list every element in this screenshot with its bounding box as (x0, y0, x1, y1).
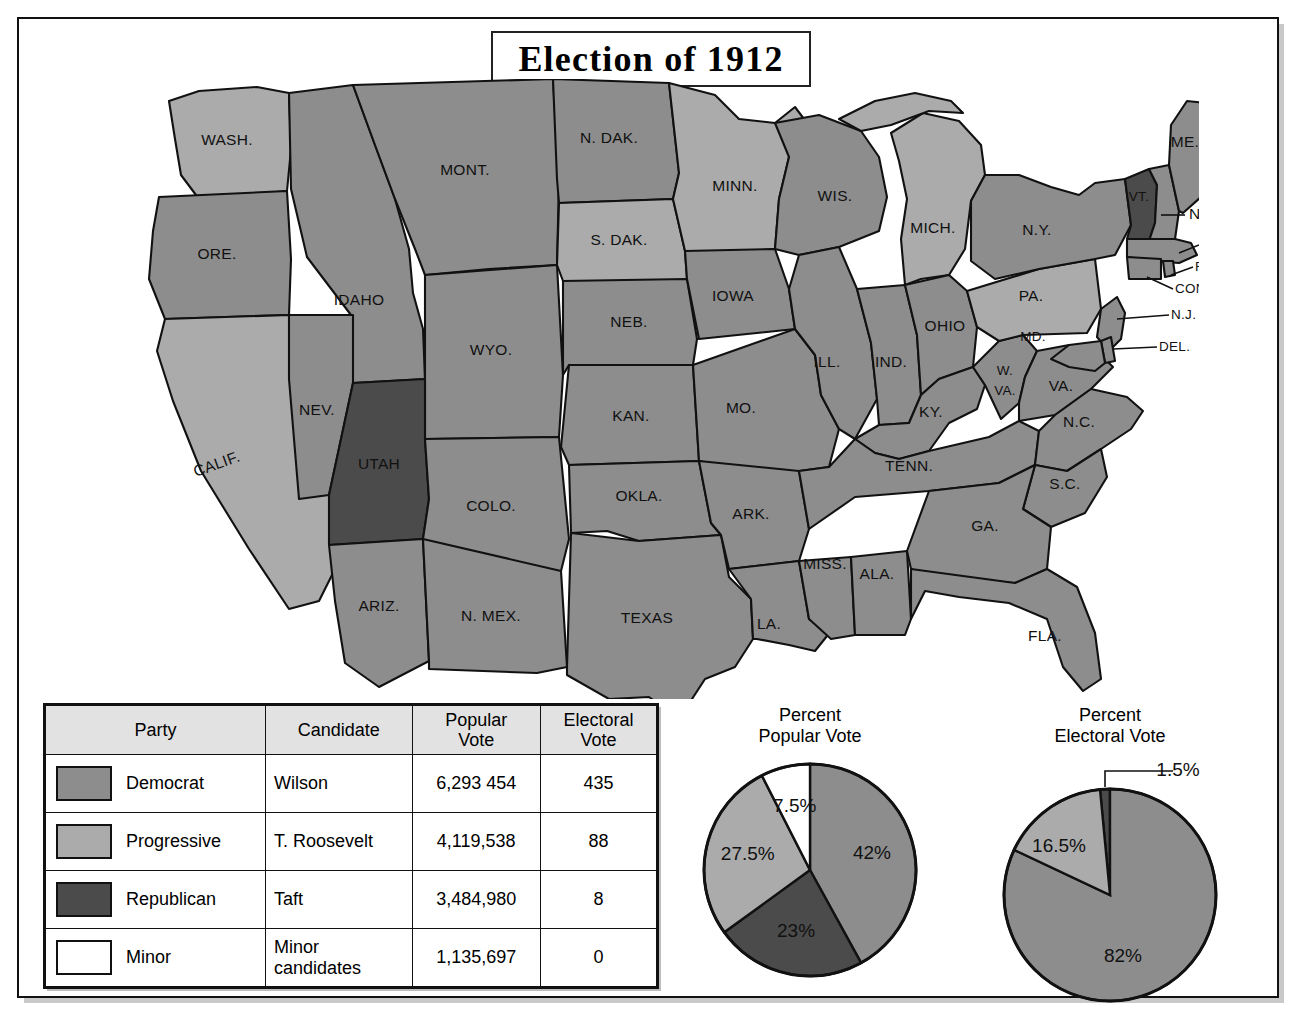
state-label-wash: WASH. (201, 131, 253, 148)
cell-popular-vote: 6,293 454 (412, 755, 540, 813)
state-label-ind: IND. (875, 353, 907, 370)
state-label-me: ME. (1171, 133, 1199, 150)
state-label-pa: PA. (1019, 287, 1044, 304)
state-label-vt: VT. (1129, 189, 1149, 204)
party-color-swatch (56, 766, 112, 801)
us-election-map: WASH. ORE. CALIF. IDAHO NEV. MONT. WYO. … (139, 79, 1199, 699)
state-label-nc: N.C. (1063, 413, 1095, 430)
state-label-nj: N.J. (1171, 307, 1196, 322)
cell-candidate: Taft (265, 871, 412, 929)
party-name: Republican (126, 889, 216, 910)
state-wis[interactable] (775, 115, 887, 255)
col-header-party: Party (46, 706, 266, 755)
candidate-name-l2: candidates (274, 958, 404, 978)
state-label-del: DEL. (1159, 339, 1190, 354)
state-conn[interactable] (1127, 257, 1161, 279)
state-label-ohio: OHIO (925, 317, 966, 334)
pie-chart-electoral-vote: Percent Electoral Vote 82%16.5%1.5% (965, 705, 1255, 1005)
cell-popular-vote: 4,119,538 (412, 813, 540, 871)
cell-party: Progressive (46, 813, 266, 871)
state-label-ga: GA. (971, 517, 999, 534)
state-label-ill: ILL. (813, 353, 840, 370)
cell-party: Republican (46, 871, 266, 929)
pie-title-popular-l2: Popular Vote (665, 726, 955, 747)
cell-electoral-vote: 435 (540, 755, 656, 813)
cell-candidate: T. Roosevelt (265, 813, 412, 871)
pie-electoral-svg: 82%16.5%1.5% (995, 755, 1225, 1005)
party-name: Minor (126, 947, 171, 968)
state-label-sc: S.C. (1049, 475, 1080, 492)
state-label-wis: WIS. (818, 187, 853, 204)
leader-line-del (1113, 347, 1157, 349)
state-label-conn: CONN. (1175, 281, 1199, 296)
state-label-miss: MISS. (803, 555, 847, 572)
state-label-tenn: TENN. (885, 457, 933, 474)
table-row: DemocratWilson6,293 454435 (46, 755, 657, 813)
col-header-popular-l2: Vote (421, 730, 532, 750)
pie-title-popular: Percent Popular Vote (665, 705, 955, 747)
state-label-ore: ORE. (197, 245, 236, 262)
pie-label-progressive: 27.5% (721, 844, 775, 865)
pie-title-popular-l1: Percent (665, 705, 955, 726)
state-label-mo: MO. (726, 399, 756, 416)
table-row: ProgressiveT. Roosevelt4,119,53888 (46, 813, 657, 871)
party-color-swatch (56, 940, 112, 975)
state-label-sdak: S. DAK. (590, 231, 647, 248)
table-row: MinorMinorcandidates1,135,6970 (46, 929, 657, 987)
col-header-candidate: Candidate (265, 706, 412, 755)
pie-label-democrat: 42% (853, 843, 891, 864)
pie-chart-popular-vote: Percent Popular Vote 42%23%27.5%7.5% (665, 705, 955, 985)
cell-candidate: Wilson (265, 755, 412, 813)
candidate-name-l1: Minor (274, 937, 404, 957)
state-label-kan: KAN. (612, 407, 649, 424)
state-label-fla: FLA. (1028, 627, 1062, 644)
state-label-mont: MONT. (440, 161, 490, 178)
cell-candidate: Minorcandidates (265, 929, 412, 987)
page-title: Election of 1912 (518, 38, 783, 80)
party-color-swatch (56, 882, 112, 917)
pie-popular-svg: 42%23%27.5%7.5% (695, 755, 925, 985)
party-color-swatch (56, 824, 112, 859)
state-label-okla: OKLA. (615, 487, 662, 504)
state-label-nmex: N. MEX. (461, 607, 521, 624)
state-label-ky: KY. (919, 403, 943, 420)
pie-label-minor: 7.5% (773, 795, 816, 816)
state-label-minn: MINN. (712, 177, 757, 194)
state-label-iowa: IOWA (712, 287, 754, 304)
state-label-ala: ALA. (860, 565, 895, 582)
cell-party: Democrat (46, 755, 266, 813)
state-label-wva-line2: VA. (994, 383, 1016, 398)
results-legend-table: Party Candidate Popular Vote Electoral V… (43, 703, 659, 989)
state-label-ny: N.Y. (1022, 221, 1051, 238)
state-label-neb: NEB. (610, 313, 647, 330)
table-header-row: Party Candidate Popular Vote Electoral V… (46, 706, 657, 755)
state-label-va: VA. (1049, 377, 1074, 394)
usmap-svg: WASH. ORE. CALIF. IDAHO NEV. MONT. WYO. … (139, 79, 1199, 699)
state-label-ark: ARK. (732, 505, 769, 522)
figure-frame: Election of 1912 (17, 17, 1279, 998)
state-label-md: MD. (1020, 329, 1046, 344)
cell-electoral-vote: 88 (540, 813, 656, 871)
cell-party: Minor (46, 929, 266, 987)
col-header-electoral-l2: Vote (549, 730, 648, 750)
pie-label-democrat: 82% (1104, 945, 1142, 966)
state-label-ariz: ARIZ. (358, 597, 399, 614)
state-label-wyo: WYO. (470, 341, 513, 358)
party-name: Progressive (126, 831, 221, 852)
state-fla[interactable] (911, 569, 1101, 691)
pie-title-electoral-l1: Percent (965, 705, 1255, 726)
state-label-utah: UTAH (358, 455, 400, 472)
col-header-electoral-vote: Electoral Vote (540, 706, 656, 755)
pie-label-progressive: 16.5% (1032, 835, 1086, 856)
cell-popular-vote: 1,135,697 (412, 929, 540, 987)
state-label-ndak: N. DAK. (580, 129, 638, 146)
pie-label-republican: 23% (777, 921, 815, 942)
state-label-wva-line1: W. (997, 363, 1013, 378)
col-header-electoral-l1: Electoral (549, 710, 648, 730)
state-label-nh: N.H. (1189, 205, 1199, 222)
cell-popular-vote: 3,484,980 (412, 871, 540, 929)
state-ala[interactable] (851, 551, 911, 635)
cell-electoral-vote: 8 (540, 871, 656, 929)
party-name: Democrat (126, 773, 204, 794)
state-label-ri: R.I. (1195, 259, 1199, 274)
